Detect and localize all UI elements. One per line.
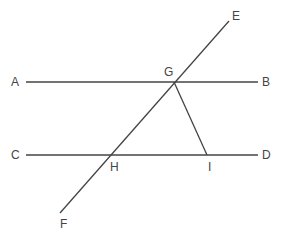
label-i: I: [208, 160, 211, 174]
label-g: G: [164, 65, 173, 79]
line-ef-transversal: [60, 21, 229, 213]
label-f: F: [60, 217, 67, 231]
segment-gi: [174, 82, 207, 155]
label-a: A: [11, 75, 19, 89]
geometry-diagram: A B C D E F G H I: [0, 0, 284, 236]
label-b: B: [262, 75, 270, 89]
label-c: C: [11, 148, 20, 162]
label-h: H: [110, 160, 119, 174]
label-d: D: [262, 148, 271, 162]
label-e: E: [232, 9, 240, 23]
